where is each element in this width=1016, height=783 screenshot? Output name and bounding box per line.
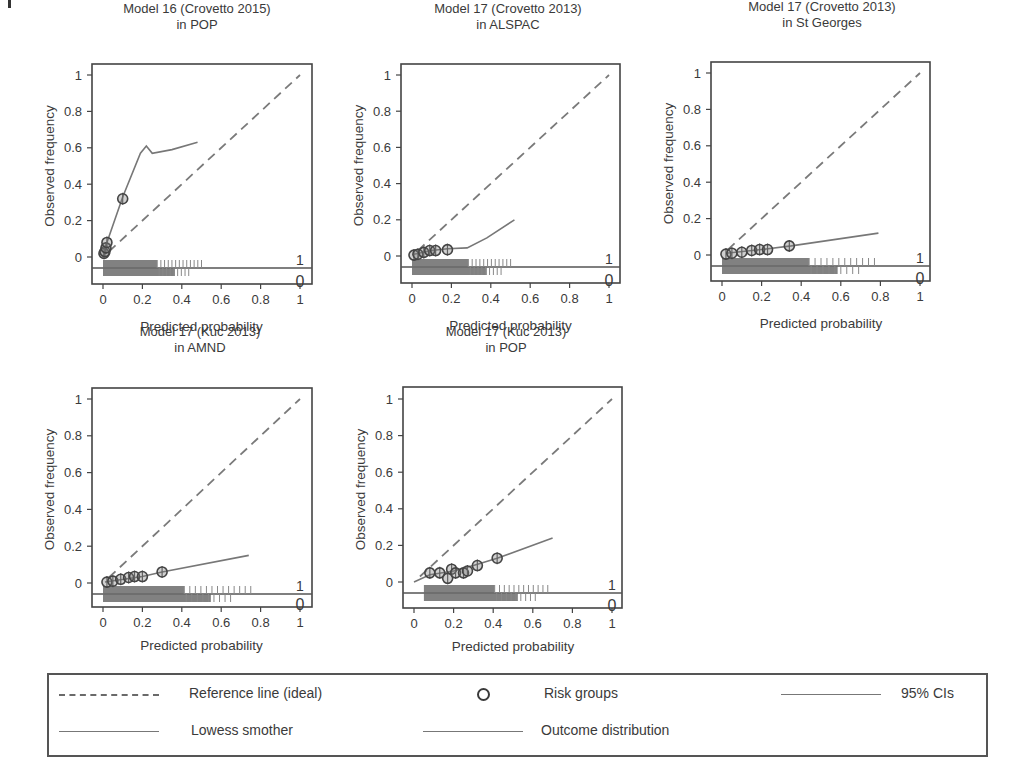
x-tick-label: 0.4	[792, 289, 810, 304]
risk-group-marker	[763, 245, 773, 255]
y-tick-label: 0.4	[64, 502, 82, 517]
x-tick-label: 1	[608, 616, 615, 631]
y-tick-label: 0.2	[64, 539, 82, 554]
outcome-label-0: 0	[916, 270, 925, 287]
y-tick-label: 0.4	[683, 175, 701, 190]
panel-subtitle: in St Georges	[782, 15, 862, 30]
panel-title: Model 17 (Kuc 2013)	[446, 324, 567, 339]
x-tick-label: 0.2	[445, 616, 463, 631]
x-tick-label: 0.6	[212, 292, 230, 307]
y-axis-label: Observed frequency	[353, 428, 368, 550]
x-axis-label: Predicted probability	[452, 639, 575, 654]
plot-frame	[92, 64, 312, 284]
risk-group-marker	[118, 194, 128, 204]
x-tick-label: 0	[99, 615, 106, 630]
reference-line	[418, 75, 609, 251]
y-tick-label: 0	[75, 250, 82, 265]
risk-group-marker	[157, 567, 167, 577]
calibration-panel-5: Model 17 (Kuc 2013)in POP00.20.40.60.810…	[353, 324, 622, 654]
outcome-label-1: 1	[296, 578, 304, 594]
calibration-panel-2: Model 17 (Crovetto 2013)in ALSPAC00.20.4…	[351, 1, 620, 333]
outcome-label-1: 1	[605, 251, 613, 267]
y-tick-label: 0	[75, 576, 82, 591]
panel-title: Model 17 (Crovetto 2013)	[434, 1, 581, 16]
x-tick-label: 0.4	[484, 616, 502, 631]
calibration-panel-4: Model 17 (Kuc 2013)in AMND00.20.40.60.81…	[42, 324, 312, 653]
reference-line	[420, 399, 612, 577]
y-tick-label: 0.2	[375, 538, 393, 553]
panel-title: Model 17 (Crovetto 2013)	[748, 0, 895, 14]
legend-lowess-label: Lowess smother	[191, 722, 293, 738]
outcome-label-1: 1	[296, 252, 304, 268]
x-tick-label: 0.8	[561, 291, 579, 306]
x-tick-label: 0	[408, 291, 415, 306]
y-tick-label: 0.2	[64, 213, 82, 228]
x-tick-label: 0.8	[252, 292, 270, 307]
legend-risk-groups-label: Risk groups	[544, 685, 618, 701]
y-tick-label: 0.6	[64, 465, 82, 480]
outcome-distribution-rug	[103, 586, 251, 602]
reference-line	[728, 73, 920, 250]
reference-line-swatch-icon	[59, 694, 159, 696]
y-tick-label: 1	[75, 392, 82, 407]
y-tick-label: 1	[694, 66, 701, 81]
x-tick-label: 1	[296, 292, 303, 307]
x-axis-label: Predicted probability	[760, 316, 883, 331]
x-tick-label: 0.2	[753, 289, 771, 304]
y-axis-label: Observed frequency	[42, 105, 57, 227]
outcome-label-0: 0	[608, 597, 617, 614]
y-tick-label: 0.4	[64, 177, 82, 192]
x-tick-label: 0.4	[173, 292, 191, 307]
x-tick-label: 0.8	[871, 289, 889, 304]
legend: Reference line (ideal) Risk groups 95% C…	[47, 673, 988, 757]
y-tick-label: 0.4	[373, 176, 391, 191]
y-tick-label: 0.8	[64, 104, 82, 119]
outcome-label-1: 1	[608, 577, 616, 593]
y-tick-label: 1	[384, 68, 391, 83]
y-tick-label: 1	[386, 392, 393, 407]
x-tick-label: 0.4	[482, 291, 500, 306]
panel-subtitle: in AMND	[174, 340, 225, 355]
risk-group-marker	[425, 568, 435, 578]
x-tick-label: 0.8	[563, 616, 581, 631]
x-axis-label: Predicted probability	[140, 638, 263, 653]
x-tick-label: 1	[296, 615, 303, 630]
panel-subtitle: in POP	[176, 17, 217, 32]
y-tick-label: 0.6	[64, 140, 82, 155]
risk-group-marker	[137, 572, 147, 582]
x-tick-label: 0.6	[212, 615, 230, 630]
risk-group-marker	[472, 561, 482, 571]
x-tick-label: 0.6	[832, 289, 850, 304]
risk-group-marker	[442, 245, 452, 255]
y-tick-label: 0.8	[64, 428, 82, 443]
risk-group-marker	[727, 248, 737, 258]
x-tick-label: 0	[99, 292, 106, 307]
panel-subtitle: in POP	[485, 340, 526, 355]
y-tick-label: 0.2	[373, 212, 391, 227]
risk-group-marker	[784, 241, 794, 251]
calibration-panel-1: Model 16 (Crovetto 2015)in POP00.20.40.6…	[42, 1, 312, 334]
legend-ci-label: 95% CIs	[901, 685, 954, 701]
y-axis-label: Observed frequency	[42, 428, 57, 550]
reference-line	[109, 399, 300, 577]
y-tick-label: 0.8	[373, 104, 391, 119]
y-tick-label: 0.6	[375, 465, 393, 480]
outcome-label-0: 0	[605, 272, 614, 289]
panel-title: Model 17 (Kuc 2013)	[140, 324, 261, 339]
x-tick-label: 0.6	[524, 616, 542, 631]
y-tick-label: 0	[386, 575, 393, 590]
x-tick-label: 0.2	[133, 615, 151, 630]
y-tick-label: 0.8	[683, 102, 701, 117]
panel-title: Model 16 (Crovetto 2015)	[123, 1, 270, 16]
x-tick-label: 0	[718, 289, 725, 304]
x-tick-label: 0.4	[173, 615, 191, 630]
legend-reference-label: Reference line (ideal)	[189, 685, 322, 701]
y-tick-label: 0.4	[375, 501, 393, 516]
outcome-label-1: 1	[916, 250, 924, 266]
reference-line	[109, 75, 300, 252]
risk-group-marker	[737, 247, 747, 257]
y-axis-label: Observed frequency	[661, 102, 676, 224]
risk-group-circle-icon	[477, 688, 490, 701]
risk-group-marker	[431, 246, 441, 256]
risk-group-marker	[102, 237, 112, 247]
